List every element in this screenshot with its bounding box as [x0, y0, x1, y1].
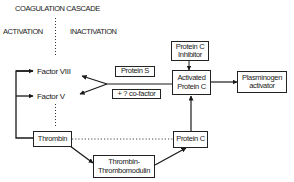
node-factor-viii: Factor VIII — [37, 67, 71, 76]
node-protein-s: Protein S — [115, 66, 155, 77]
node-thrombin: Thrombin — [33, 131, 72, 147]
column-label-activation: ACTIVATION — [3, 27, 43, 36]
node-protein-c: Protein C — [173, 131, 208, 148]
activation-bracket — [16, 71, 33, 138]
node-protein-c-inhibitor: Protein CInhibitor — [171, 41, 209, 61]
column-label-inactivation: INACTIVATION — [70, 27, 117, 36]
diagram-title: COAGULATION CASCADE — [15, 4, 100, 13]
node-plasminogen-activator: Plasminogenactivator — [237, 71, 287, 93]
node-activated-protein-c: ActivatedProtein C — [172, 70, 211, 95]
node-thrombin-thrombomodulin: Thrombin-Thrombomodulin — [93, 155, 155, 178]
node-cofactor: + ? co-factor — [112, 89, 161, 99]
node-factor-v: Factor V — [37, 92, 65, 101]
